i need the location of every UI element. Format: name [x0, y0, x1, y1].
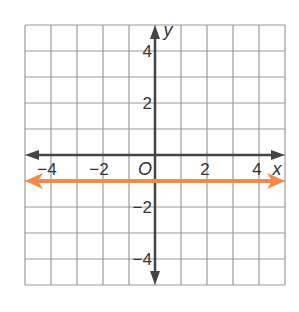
x-tick-label: 2	[200, 160, 209, 179]
origin-label: O	[138, 159, 152, 179]
x-axis-left-arrow-icon	[25, 150, 39, 160]
tick-labels: −4−22442−2−4Oxy	[37, 20, 282, 269]
axes	[25, 25, 285, 285]
coordinate-plane: −4−22442−2−4Oxy	[0, 0, 299, 312]
y-tick-label: 4	[143, 42, 152, 61]
y-tick-label: −2	[133, 198, 152, 217]
x-tick-label: 4	[252, 160, 261, 179]
x-tick-label: −4	[37, 160, 56, 179]
y-axis-label: y	[162, 20, 174, 40]
x-axis-label: x	[272, 159, 283, 179]
x-tick-label: −2	[89, 160, 108, 179]
y-tick-label: −4	[133, 250, 152, 269]
y-axis-down-arrow-icon	[150, 271, 160, 285]
y-axis-up-arrow-icon	[150, 25, 160, 39]
y-tick-label: 2	[143, 94, 152, 113]
